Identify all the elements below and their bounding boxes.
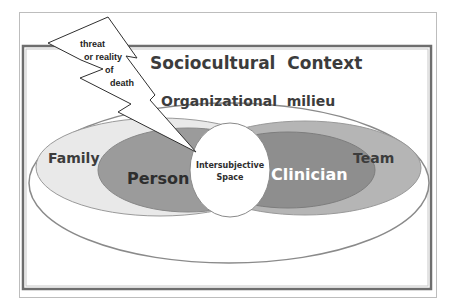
bolt-text-line2: or reality: [84, 52, 122, 62]
organizational-milieu-label: Organizational milieu: [161, 93, 335, 109]
sociocultural-context-label: Sociocultural Context: [150, 53, 362, 73]
intersubjective-space-circle: [190, 123, 270, 217]
intersubjective-space-label-line2: Space: [216, 173, 244, 182]
bolt-text-line4: death: [110, 78, 134, 88]
family-label: Family: [48, 150, 100, 166]
bolt-text-line3: of: [105, 65, 114, 75]
person-label: Person: [127, 169, 189, 188]
sociocultural-diagram: Sociocultural Context Organizational mil…: [0, 0, 458, 305]
bolt-text-line1: threat: [80, 39, 105, 49]
clinician-label: Clinician: [271, 165, 348, 184]
intersubjective-space-label-line1: Intersubjective: [196, 161, 265, 170]
team-label: Team: [353, 150, 394, 166]
